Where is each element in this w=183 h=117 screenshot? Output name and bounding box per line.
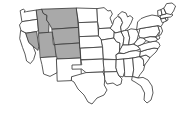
state-ne[interactable]: Nebraska <box>80 36 103 48</box>
state-al[interactable]: Alabama <box>124 58 134 77</box>
us-map-container: WashingtonOregonCaliforniaNevadaIdahoMon… <box>0 0 183 117</box>
state-ar[interactable]: Arkansas <box>103 60 117 72</box>
state-az[interactable]: Arizona <box>41 57 58 77</box>
state-tx[interactable]: Texas <box>72 72 107 104</box>
state-wy[interactable]: Wyoming <box>52 27 79 44</box>
state-fl[interactable]: Florida <box>132 77 153 103</box>
state-ks[interactable]: Kansas <box>81 47 104 60</box>
state-co[interactable]: Colorado <box>55 43 81 59</box>
state-sd[interactable]: South Dakota <box>79 22 99 37</box>
state-nd[interactable]: North Dakota <box>77 8 98 23</box>
state-mn[interactable]: Minnesota <box>97 8 112 29</box>
states-layer: WashingtonOregonCaliforniaNevadaIdahoMon… <box>20 3 176 104</box>
us-states-map: WashingtonOregonCaliforniaNevadaIdahoMon… <box>0 0 183 117</box>
